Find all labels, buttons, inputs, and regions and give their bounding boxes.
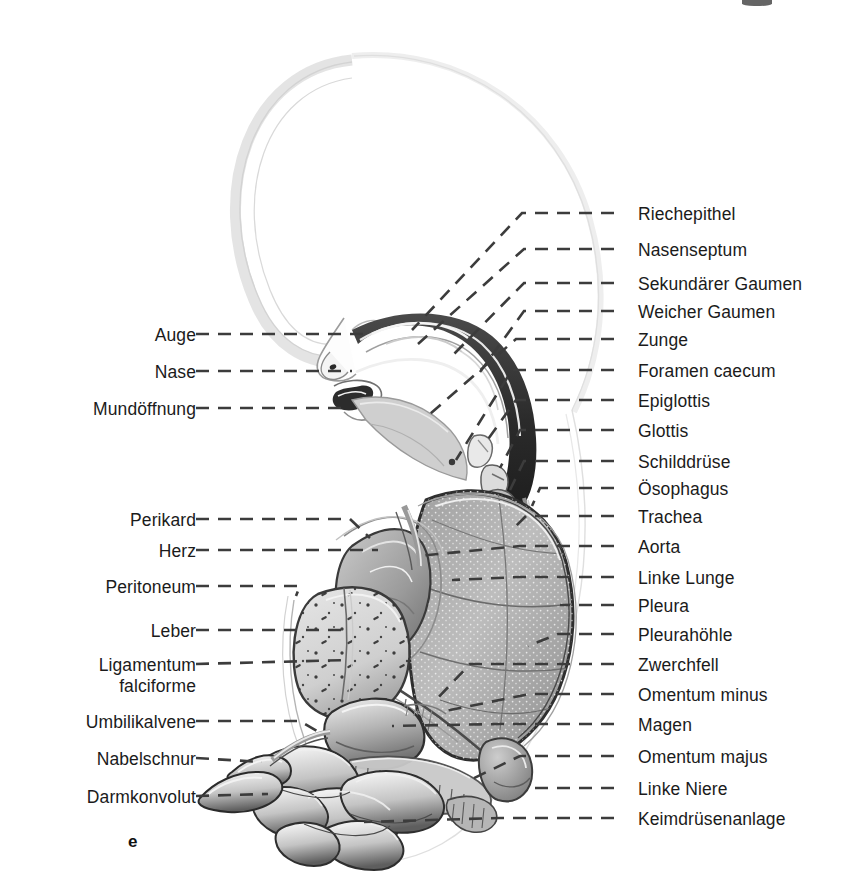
label-magen: Magen — [638, 715, 692, 736]
leader-darmkonvolut — [196, 794, 268, 796]
label-herz: Herz — [0, 541, 196, 562]
label-nabelschnur: Nabelschnur — [0, 749, 196, 770]
leader-omentum-minus — [440, 694, 614, 712]
peritoneum — [283, 596, 306, 750]
heart-and-pericardium — [335, 506, 444, 666]
leader-zunge — [430, 339, 614, 414]
stomach — [324, 699, 446, 770]
label-leber: Leber — [0, 621, 196, 642]
leader-lines — [196, 213, 614, 822]
leader-aorta — [418, 546, 614, 556]
anatomy-figure: Auge Nase Mundöffnung Perikard Herz Peri… — [0, 0, 842, 886]
leader-weicher-gaumen — [480, 311, 614, 372]
body-wall-contour — [386, 410, 585, 862]
leader-zwerchfell — [436, 664, 614, 700]
umbilical-cord — [199, 731, 330, 812]
leader-schilddruese — [510, 461, 614, 490]
label-ligamentum-falciforme: Ligamentum falciforme — [0, 655, 196, 697]
label-aorta: Aorta — [638, 537, 680, 558]
figure-part-marker: e — [128, 832, 137, 852]
label-weicher-gaumen: Weicher Gaumen — [638, 302, 775, 323]
label-keimdruesenanlage: Keimdrüsenanlage — [638, 809, 786, 830]
leader-omentum-majus — [470, 756, 614, 780]
face-profile — [317, 318, 382, 420]
leader-trachea — [514, 516, 614, 528]
label-zunge: Zunge — [638, 330, 688, 351]
leader-keimdruesenanlage — [364, 818, 614, 822]
leader-ligamentum-falciforme — [196, 660, 348, 664]
label-pleurahoehle: Pleurahöhle — [638, 625, 733, 646]
left-lung — [400, 470, 600, 790]
label-nase: Nase — [0, 362, 196, 383]
liver — [286, 576, 426, 736]
head-outline — [235, 55, 600, 412]
leader-foramen-caecum — [456, 370, 614, 460]
label-riechepithel: Riechepithel — [638, 204, 736, 225]
leader-glottis — [500, 430, 614, 468]
left-kidney — [479, 738, 532, 801]
leader-nasenseptum — [418, 249, 614, 344]
leader-sekundaerer-gaumen — [452, 283, 614, 356]
label-pleura: Pleura — [638, 596, 689, 617]
label-linke-lunge: Linke Lunge — [638, 568, 734, 589]
label-sekundaerer-gaumen: Sekundärer Gaumen — [638, 274, 802, 295]
label-mundoeffnung: Mundöffnung — [0, 399, 196, 420]
leader-perikard — [196, 519, 370, 538]
leader-epiglottis — [486, 400, 614, 442]
diaphragm — [310, 640, 518, 786]
neck-structures — [487, 490, 540, 606]
leader-magen — [392, 724, 614, 726]
leader-nabelschnur — [196, 758, 262, 762]
label-nasenseptum: Nasenseptum — [638, 240, 747, 261]
label-epiglottis: Epiglottis — [638, 391, 710, 412]
label-omentum-minus: Omentum minus — [638, 685, 768, 706]
label-peritoneum: Peritoneum — [0, 577, 196, 598]
label-glottis: Glottis — [638, 421, 688, 442]
nasal-oral-pharyngeal-cavity — [352, 313, 536, 508]
page-header-crop-artifact — [742, 0, 772, 6]
intestinal-loops — [252, 746, 443, 870]
leader-pleurahoehle — [528, 634, 614, 646]
label-umbilikalvene: Umbilikalvene — [0, 712, 196, 733]
label-perikard: Perikard — [0, 510, 196, 531]
label-zwerchfell: Zwerchfell — [638, 655, 719, 676]
label-omentum-majus: Omentum majus — [638, 747, 768, 768]
leader-peritoneum — [196, 586, 300, 596]
label-auge: Auge — [0, 325, 196, 346]
label-oesophagus: Ösophagus — [638, 479, 728, 500]
label-darmkonvolut: Darmkonvolut — [0, 787, 196, 808]
gonadal-primordium — [447, 796, 497, 832]
label-trachea: Trachea — [638, 507, 702, 528]
label-linke-niere: Linke Niere — [638, 779, 728, 800]
leader-umbilikalvene — [196, 721, 322, 734]
leader-oesophagus — [532, 488, 614, 506]
leader-linke-lunge — [452, 577, 614, 580]
label-schilddruese: Schilddrüse — [638, 452, 731, 473]
leader-riechepithel — [412, 213, 614, 330]
label-foramen-caecum: Foramen caecum — [638, 361, 776, 382]
greater-omentum — [347, 756, 491, 813]
